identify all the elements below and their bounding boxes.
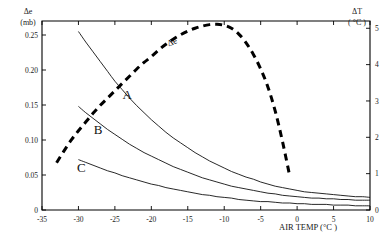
y-axis-right-ticks — [366, 28, 370, 210]
y-axis-left-title: Δe — [24, 7, 33, 16]
y2-tick-label: 2 — [375, 133, 379, 142]
x-tick-label: -15 — [183, 215, 193, 224]
x-tick-label: -25 — [110, 215, 120, 224]
x-tick-label: 10 — [366, 215, 374, 224]
curve-b-label: B — [94, 122, 103, 137]
y-tick-label: 0.20 — [25, 66, 38, 75]
x-tick-label: -30 — [73, 215, 83, 224]
y-tick-label: 0.25 — [25, 31, 38, 40]
curve-c-label: C — [77, 160, 86, 175]
y2-tick-label: 5 — [375, 24, 379, 33]
x-axis-title: AIR TEMP (°C ) — [279, 222, 337, 232]
y-tick-label: 0.10 — [25, 136, 38, 145]
x-tick-label: -5 — [258, 215, 264, 224]
chart-canvas: -35-30-25-20-15-10-50510 00.050.100.150.… — [0, 0, 390, 235]
y-axis-right-tick-labels: 012345 — [375, 24, 379, 215]
y-tick-label: 0.05 — [25, 171, 38, 180]
series-curve-a — [78, 32, 370, 198]
y-axis-right-title: ΔT — [352, 7, 362, 16]
x-tick-label: -20 — [146, 215, 156, 224]
y-axis-right-unit: ( °C ) — [348, 18, 366, 27]
curve-a-label: A — [123, 87, 133, 102]
y-axis-left-ticks — [42, 35, 46, 210]
chart-figure: -35-30-25-20-15-10-50510 00.050.100.150.… — [0, 0, 390, 235]
series-curve-e — [57, 24, 290, 176]
y2-tick-label: 1 — [375, 169, 379, 178]
x-tick-label: -10 — [219, 215, 229, 224]
data-series-group — [57, 24, 370, 206]
x-tick-label: -35 — [37, 215, 47, 224]
y2-tick-label: 0 — [375, 206, 379, 215]
y-axis-left-unit: (mb) — [20, 18, 36, 27]
y-tick-label: 0.15 — [25, 101, 38, 110]
series-curve-b — [78, 106, 370, 200]
y-axis-left-tick-labels: 00.050.100.150.200.25 — [25, 31, 38, 215]
y-tick-label: 0 — [34, 206, 38, 215]
y2-tick-label: 3 — [375, 97, 379, 106]
curve-annotations-group: ΔeABC — [77, 35, 178, 174]
y2-tick-label: 4 — [375, 60, 379, 69]
